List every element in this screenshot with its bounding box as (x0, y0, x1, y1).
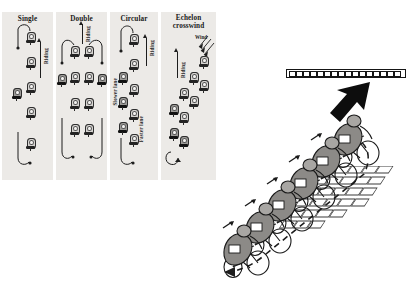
advance-arrow-icon (288, 154, 301, 163)
cyclist (210, 218, 276, 280)
rider-top-view (199, 80, 208, 93)
rider-top-view (169, 128, 178, 141)
panel-circular-rotation-arrows (110, 12, 158, 180)
rider-top-view (179, 112, 188, 125)
rider-top-view (179, 136, 188, 149)
advance-arrow-icon (244, 198, 257, 207)
rider-top-view (199, 56, 208, 69)
panel-double: Double Riding (56, 12, 107, 180)
formation-panels: Single Riding (2, 12, 216, 180)
panel-double-rotation-arrows (56, 12, 107, 180)
rider-top-view (169, 104, 178, 117)
advance-arrow-icon (310, 132, 323, 141)
panel-single: Single Riding (2, 12, 53, 180)
advance-arrow-icon (222, 220, 235, 229)
panel-circular: Circular Riding Slower lane Faster lane (110, 12, 158, 180)
panel-single-rotation-arrows (2, 12, 53, 180)
rider-top-view (189, 72, 198, 85)
echelon-perspective-scene (214, 58, 416, 298)
advance-arrow-icon (266, 176, 279, 185)
panel-echelon: Echelon crosswind Wind Riding (161, 12, 216, 180)
figure-canvas: Single Riding (0, 0, 416, 298)
rider-top-view (179, 88, 188, 101)
rider-top-view (189, 96, 198, 109)
